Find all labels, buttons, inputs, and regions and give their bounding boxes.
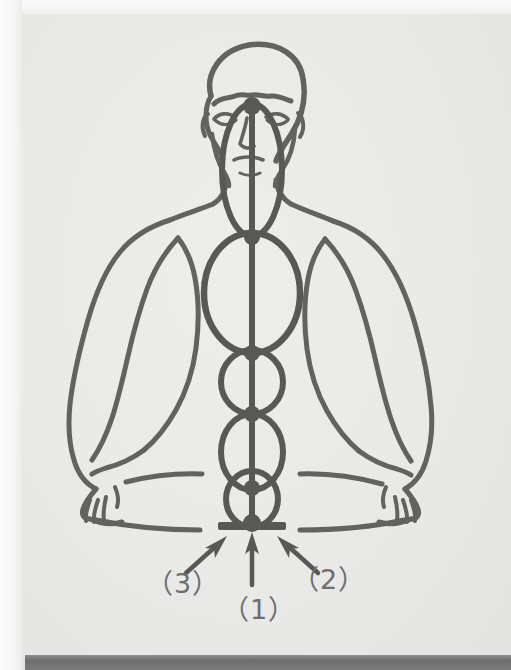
mouth [234,157,263,160]
figure-page: （3） （1） （2） [0,0,511,670]
sacral-node [244,480,260,496]
base-plate [218,522,286,530]
lap-line-right [300,474,382,484]
left-elbow-fold [92,450,144,474]
trapezius-right [291,204,333,221]
trapezius-left [170,204,213,220]
callout-label-1: （1） [222,588,296,627]
right-arm-outer [333,221,432,489]
right-forearm-top [305,239,359,451]
seat-line-left [96,520,200,530]
right-thumb [383,487,386,507]
left-finger-3 [104,497,106,520]
callout-label-3: （3） [146,562,220,601]
right-elbow-fold [359,451,411,475]
scan-bottom-edge-bar [25,655,511,670]
left-forearm-top [144,238,198,450]
lap-line-left [126,474,202,482]
crown-node [243,97,261,115]
left-thumb [115,487,118,507]
right-finger-3 [395,497,397,520]
callout-label-2: （2） [292,558,366,597]
seat-line-right [300,520,404,530]
left-arm-outer [69,220,170,489]
meditation-figure-drawing [0,0,511,670]
